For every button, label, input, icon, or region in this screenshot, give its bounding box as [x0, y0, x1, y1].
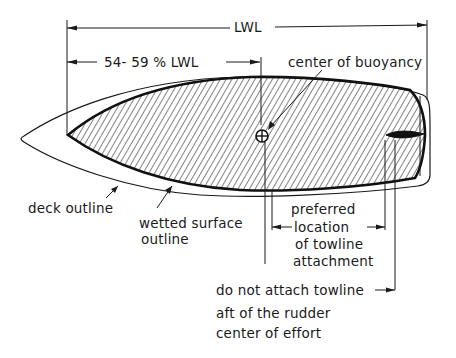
preferred-label-3: of towline: [295, 236, 363, 252]
deck-outline-label: deck outline: [28, 200, 113, 216]
donot-label-2: aft of the rudder: [216, 305, 331, 321]
wetted-surface-label-1: wetted surface: [139, 215, 243, 231]
preferred-label-1: preferred: [291, 201, 355, 217]
arrow-right-icon: [417, 23, 427, 28]
center-of-buoyancy-label: center of buoyancy: [288, 54, 422, 70]
cb-range-label: 54- 59 % LWL: [104, 54, 198, 70]
preferred-label-2: location: [294, 219, 349, 235]
lwl-label: LWL: [234, 19, 262, 35]
preferred-label-4: attachment: [293, 253, 373, 269]
donot-label-3: center of effort: [216, 325, 321, 341]
donot-label-1: do not attach towline: [216, 282, 364, 298]
arrow-left-icon: [67, 26, 77, 31]
wetted-surface-label-2: outline: [141, 231, 189, 247]
